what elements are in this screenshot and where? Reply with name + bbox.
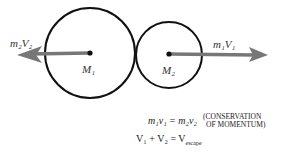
escape-subscript: escape xyxy=(186,140,202,146)
mass-2-center-dot xyxy=(166,51,171,56)
mass-1-center-dot xyxy=(87,50,92,55)
arrow-label-right: m₁V₁ xyxy=(213,38,235,50)
arrow-label-left: m₂V₂ xyxy=(10,37,32,49)
mass-1-label: M₁ xyxy=(82,63,95,75)
mass-2-label: M₂ xyxy=(162,64,175,76)
escape-equation-main: V₁ + V₂ = V xyxy=(136,133,186,144)
momentum-equation: m₁v₁ = m₂v₂ xyxy=(148,115,197,126)
momentum-note-line2: OF MOMENTUM) xyxy=(203,121,265,129)
escape-equation: V₁ + V₂ = Vescape xyxy=(136,133,202,146)
momentum-note: (CONSERVATION OF MOMENTUM) xyxy=(203,113,265,129)
momentum-diagram xyxy=(0,0,282,155)
